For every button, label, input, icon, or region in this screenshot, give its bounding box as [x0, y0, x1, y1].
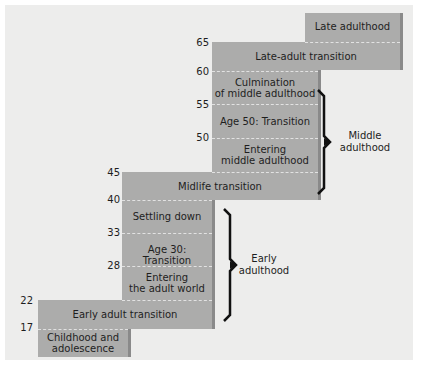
stage-label: Entering middle adulthood — [212, 144, 318, 166]
stage-label: Settling down — [122, 211, 212, 222]
era-label-early-adulthood: Early adulthood — [234, 253, 294, 277]
divider-28 — [122, 266, 212, 267]
age-label: 22 — [15, 295, 33, 306]
divider-40 — [122, 200, 212, 201]
stage-label: Midlife transition — [122, 181, 318, 192]
era-label-middle-adulthood: Middle adulthood — [330, 130, 400, 154]
age-label: 33 — [102, 227, 120, 238]
divider-33 — [122, 233, 212, 234]
age-label: 40 — [102, 194, 120, 205]
divider-50 — [212, 138, 318, 139]
divider-17 — [38, 329, 128, 330]
stage-label: Childhood and adolescence — [38, 332, 128, 354]
stage-label: Late adulthood — [305, 21, 400, 32]
stage-label: Entering the adult world — [122, 272, 212, 294]
age-label: 17 — [15, 322, 33, 333]
divider-55 — [212, 104, 318, 105]
age-label: 60 — [191, 66, 209, 77]
stage-label: Culmination of middle adulthood — [212, 77, 318, 99]
age-label: 45 — [102, 167, 120, 178]
divider — [305, 42, 400, 43]
divider-60 — [212, 71, 318, 72]
age-label: 50 — [191, 132, 209, 143]
stage-label: Age 30: Transition — [122, 244, 212, 266]
age-label: 65 — [191, 37, 209, 48]
age-label: 55 — [191, 99, 209, 110]
stage-label: Early adult transition — [38, 309, 212, 320]
divider-22 — [122, 300, 212, 301]
divider-45 — [212, 172, 318, 173]
stage-label: Late-adult transition — [212, 51, 400, 62]
stage-label: Age 50: Transition — [212, 116, 318, 127]
age-label: 28 — [102, 260, 120, 271]
